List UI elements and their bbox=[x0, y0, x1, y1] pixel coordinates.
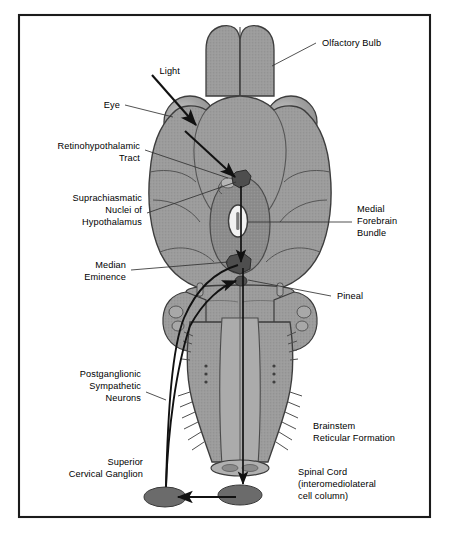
label-olfactory-bulb: Olfactory Bulb bbox=[322, 38, 381, 48]
label-superior-cervical-line2: Cervical Ganglion bbox=[69, 469, 143, 479]
label-median-eminence-line2: Eminence bbox=[84, 272, 126, 282]
label-retinohypothalamic-tract-line1: Retinohypothalamic bbox=[58, 141, 141, 151]
label-medial-forebrain-line2: Forebrain bbox=[357, 216, 397, 226]
label-postganglionic-line1: Postganglionic bbox=[80, 369, 141, 379]
pineal-gland bbox=[235, 276, 247, 286]
brain-pathway-diagram: Olfactory Bulb Light Eye Retinohypothala… bbox=[0, 0, 449, 534]
label-medial-forebrain-line3: Bundle bbox=[357, 228, 386, 238]
label-suprachiasmatic-line3: Hypothalamus bbox=[82, 217, 142, 227]
label-suprachiasmatic-line1: Suprachiasmatic bbox=[73, 193, 143, 203]
figure-container: Olfactory Bulb Light Eye Retinohypothala… bbox=[0, 0, 449, 534]
label-postganglionic-line2: Sympathetic bbox=[89, 381, 141, 391]
label-superior-cervical-line1: Superior bbox=[107, 457, 143, 467]
label-postganglionic-line3: Neurons bbox=[106, 393, 142, 403]
label-spinal-cord-line1: Spinal Cord bbox=[298, 467, 347, 477]
superior-cervical-ganglion-right bbox=[218, 485, 262, 505]
label-median-eminence-line1: Median bbox=[95, 260, 126, 270]
label-eye: Eye bbox=[104, 100, 120, 110]
label-retinohypothalamic-tract-line2: Tract bbox=[119, 153, 140, 163]
label-spinal-cord-line3: cell column) bbox=[298, 491, 348, 501]
label-spinal-cord-line2: (interomediolateral bbox=[298, 479, 376, 489]
label-light: Light bbox=[160, 66, 181, 76]
label-brainstem-line1: Brainstem bbox=[313, 421, 356, 431]
olfactory-bulb bbox=[206, 26, 274, 96]
label-suprachiasmatic-line2: Nuclei of bbox=[105, 205, 142, 215]
label-brainstem-line2: Reticular Formation bbox=[313, 433, 395, 443]
label-medial-forebrain-line1: Medial bbox=[357, 204, 385, 214]
label-pineal: Pineal bbox=[337, 291, 363, 301]
